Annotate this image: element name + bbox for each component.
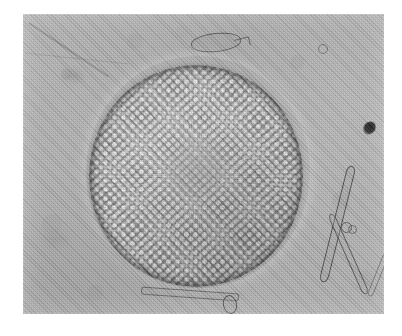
photomicrograph-plate <box>23 14 384 314</box>
centric-diatom-valve <box>89 65 303 287</box>
areolae-pore-pattern-secondary <box>89 65 303 287</box>
page-canvas <box>0 0 402 336</box>
